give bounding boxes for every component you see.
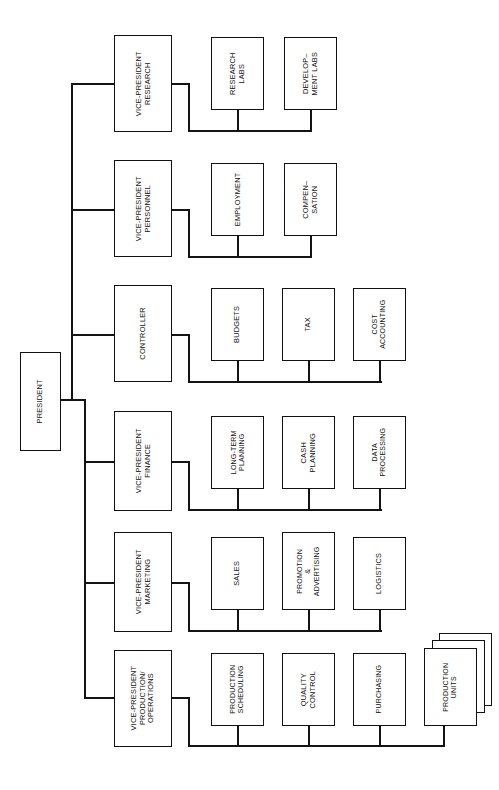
promotion-advertising-line3: ADVERTISING xyxy=(313,546,320,596)
node-budgets[interactable]: BUDGETS xyxy=(211,288,264,361)
stem-production-units xyxy=(443,725,445,747)
node-compensation-label: COMPEN– SATION xyxy=(302,181,319,219)
data-processing-line2: PROCESSING xyxy=(380,428,387,477)
stem-data-processing xyxy=(379,489,381,511)
node-data-processing-label: DATA PROCESSING xyxy=(371,428,388,477)
node-production-units[interactable]: PRODUCTION UNITS xyxy=(424,648,477,726)
connector-production-drop xyxy=(188,697,190,747)
connector-controller-drop xyxy=(188,334,190,383)
stem-promotion-advertising xyxy=(308,610,310,632)
node-research-labs-label: RESEARCH LABS xyxy=(229,52,246,95)
spine-lower xyxy=(84,399,86,699)
long-term-planning-line2: PLANNING xyxy=(238,434,245,471)
connector-spine-to-controller xyxy=(71,334,115,336)
vp-research-line2: RESEARCH xyxy=(142,62,151,105)
vp-production-line1: VICE-PRESIDENT xyxy=(129,666,138,731)
node-employment-label: EMPLOYMENT xyxy=(233,173,242,227)
stem-purchasing xyxy=(379,725,381,747)
node-budgets-label: BUDGETS xyxy=(233,306,242,343)
stem-tax xyxy=(308,361,310,383)
node-president-label: PRESIDENT xyxy=(36,379,45,423)
node-vp-research-label: VICE-PRESIDENT RESEARCH xyxy=(134,51,151,116)
node-compensation[interactable]: COMPEN– SATION xyxy=(284,163,337,236)
development-labs-line1: DEVELOP– xyxy=(301,53,310,94)
stem-budgets xyxy=(237,361,239,383)
node-vp-personnel-label: VICE-PRESIDENT PERSONNEL xyxy=(134,176,151,241)
bus-production xyxy=(188,745,445,747)
stem-production-scheduling xyxy=(237,725,239,747)
node-sales[interactable]: SALES xyxy=(211,537,264,610)
node-sales-label: SALES xyxy=(233,561,242,586)
node-vp-marketing[interactable]: VICE-PRESIDENT MARKETING xyxy=(114,532,172,632)
stem-sales xyxy=(237,610,239,632)
compensation-line1: COMPEN– xyxy=(301,181,310,219)
bus-personnel xyxy=(188,256,312,258)
node-cost-accounting-label: COST ACCOUNTING xyxy=(371,300,388,349)
node-logistics[interactable]: LOGISTICS xyxy=(353,537,406,610)
vp-finance-line2: FINANCE xyxy=(142,444,151,478)
vp-production-line2: PRODUCTION/ xyxy=(138,672,147,726)
vp-research-line1: VICE-PRESIDENT xyxy=(133,51,142,116)
node-promotion-advertising[interactable]: PROMOTION & ADVERTISING xyxy=(282,532,335,610)
node-vp-finance-label: VICE-PRESIDENT FINANCE xyxy=(134,429,151,494)
node-controller[interactable]: CONTROLLER xyxy=(114,285,172,382)
bus-research xyxy=(188,130,312,132)
connector-finance-drop xyxy=(188,461,190,511)
stem-long-term-planning xyxy=(237,489,239,511)
node-vp-personnel[interactable]: VICE-PRESIDENT PERSONNEL xyxy=(114,160,172,257)
node-promotion-advertising-label: PROMOTION & ADVERTISING xyxy=(296,546,321,596)
node-cash-planning-label: CASH PLANNING xyxy=(300,433,317,472)
node-production-scheduling[interactable]: PRODUCTION SCHEDULING xyxy=(211,653,264,726)
connector-research-drop xyxy=(188,83,190,132)
node-production-units-label: PRODUCTION UNITS xyxy=(442,662,459,711)
node-development-labs[interactable]: DEVELOP– MENT LABS xyxy=(284,37,337,110)
connector-personnel-drop xyxy=(188,209,190,258)
connector-spine-to-marketing xyxy=(84,582,115,584)
vp-personnel-line2: PERSONNEL xyxy=(142,185,151,232)
connector-spine-to-research xyxy=(71,83,115,85)
node-vp-marketing-label: VICE-PRESIDENT MARKETING xyxy=(134,550,151,615)
connector-spine-to-production xyxy=(84,697,115,699)
stem-development-labs xyxy=(310,110,312,132)
bus-controller xyxy=(188,381,382,383)
node-cost-accounting[interactable]: COST ACCOUNTING xyxy=(353,288,406,361)
production-units-line1: PRODUCTION xyxy=(442,662,449,711)
promotion-advertising-line1: PROMOTION xyxy=(296,549,303,594)
node-quality-control[interactable]: QUALITY CONTROL xyxy=(282,653,335,726)
node-vp-finance[interactable]: VICE-PRESIDENT FINANCE xyxy=(114,411,172,511)
connector-spine-to-finance xyxy=(84,461,115,463)
connector-spine-to-personnel xyxy=(71,209,115,211)
cost-accounting-line2: ACCOUNTING xyxy=(380,300,387,349)
stem-logistics xyxy=(379,610,381,632)
node-vp-research[interactable]: VICE-PRESIDENT RESEARCH xyxy=(114,35,172,132)
node-research-labs[interactable]: RESEARCH LABS xyxy=(211,37,264,110)
quality-control-line1: QUALITY xyxy=(299,673,308,706)
node-tax[interactable]: TAX xyxy=(282,288,335,361)
cash-planning-line2: PLANNING xyxy=(307,433,316,472)
connector-marketing-drop xyxy=(188,582,190,632)
node-quality-control-label: QUALITY CONTROL xyxy=(300,671,317,709)
vp-finance-line1: VICE-PRESIDENT xyxy=(133,429,142,494)
stem-employment xyxy=(237,236,239,258)
promotion-advertising-line2: & xyxy=(304,569,311,574)
spine-upper xyxy=(71,83,73,401)
vp-marketing-line1: VICE-PRESIDENT xyxy=(133,550,142,615)
node-long-term-planning-label: LONG-TERM PLANNING xyxy=(229,431,246,475)
node-controller-label: CONTROLLER xyxy=(139,307,148,360)
node-logistics-label: LOGISTICS xyxy=(375,553,384,594)
stem-quality-control xyxy=(308,725,310,747)
node-data-processing[interactable]: DATA PROCESSING xyxy=(353,416,406,489)
node-purchasing[interactable]: PURCHASING xyxy=(353,653,406,726)
node-president[interactable]: PRESIDENT xyxy=(20,352,61,451)
cash-planning-line1: CASH xyxy=(299,442,308,463)
production-scheduling-line1: PRODUCTION xyxy=(229,665,236,714)
node-long-term-planning[interactable]: LONG-TERM PLANNING xyxy=(211,416,264,489)
node-cash-planning[interactable]: CASH PLANNING xyxy=(282,416,335,489)
node-employment[interactable]: EMPLOYMENT xyxy=(211,163,264,236)
node-vp-production-operations[interactable]: VICE-PRESIDENT PRODUCTION/ OPERATIONS xyxy=(114,650,172,747)
vp-personnel-line1: VICE-PRESIDENT xyxy=(133,176,142,241)
vp-marketing-line2: MARKETING xyxy=(142,559,151,605)
org-chart-canvas: PRESIDENT VICE-PRESIDENT RESEARCH RESEAR… xyxy=(0,0,499,790)
node-production-scheduling-label: PRODUCTION SCHEDULING xyxy=(229,665,246,714)
research-labs-line2: LABS xyxy=(236,64,245,84)
